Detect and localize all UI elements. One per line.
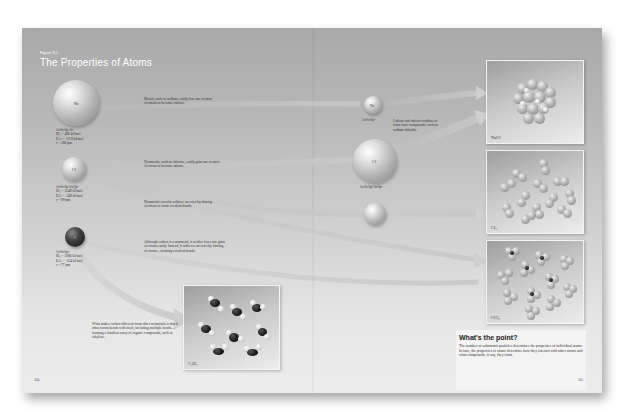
panel-c2h4: C₂H₄: [183, 285, 280, 370]
sodium-ion-config: 1s²2s²2p⁶: [362, 118, 375, 122]
panel-label-ccl4: CCl₄: [491, 315, 500, 320]
page-number-right: 105: [578, 378, 583, 382]
panel-label-nacl: NaCl: [491, 135, 501, 140]
panel-cl2: Cl₂: [486, 150, 584, 234]
figure-label: Figure 3.1: [40, 50, 58, 55]
chloride-ion-icon: Cl⁻: [353, 139, 397, 183]
chlorine-properties: 1s²2s²2p⁶3s²3p⁵ IE₁ = 1249 kJ/mol EA = −…: [56, 185, 83, 203]
sodium-ion-icon: Na⁺: [364, 96, 382, 114]
panel-ccl4: CCl₄: [486, 240, 584, 324]
caption-carbon: Although carbon is a nonmetal, it neithe…: [144, 240, 232, 253]
caption-nonmetals-share: Nonmetals can also achieve an octet by s…: [144, 200, 224, 209]
chloride-ion-config: 1s²2s²2p⁶3s²3p⁶: [360, 185, 383, 189]
sodium-symbol: Na: [53, 101, 99, 106]
sodium-atom-icon: Na: [53, 80, 99, 126]
carbon-atom-icon: C: [65, 227, 85, 247]
sodium-properties: 1s²2s²2p⁶3s¹ IE₁ = 496 kJ/mol EA = −52.9…: [56, 128, 83, 146]
carbon-symbol: C: [65, 235, 85, 240]
point-text: The number of subatomic particles determ…: [459, 344, 584, 358]
carbon-properties: 1s²2s²2p² IE₁ = 1086 kJ/mol EA = −154 kJ…: [56, 250, 83, 268]
whats-the-point-box: What's the point? The number of subatomi…: [456, 330, 586, 390]
chlorine-symbol: Cl: [62, 167, 86, 172]
chlorine-shared-atom-icon: [364, 203, 386, 225]
panel-nacl: NaCl: [486, 60, 584, 144]
caption-cations-anions: Cations and anions combine to form ionic…: [393, 119, 443, 132]
point-title: What's the point?: [459, 334, 517, 341]
chlorine-atom-icon: Cl: [62, 157, 86, 181]
panel-label-c2h4: C₂H₄: [188, 361, 197, 366]
figure-title: The Properties of Atoms: [40, 57, 152, 68]
panel-label-cl2: Cl₂: [491, 225, 497, 230]
page-number-left: 104: [34, 378, 39, 382]
caption-nonmetals-gain: Nonmetals, such as chlorine, easily gain…: [144, 160, 222, 169]
caption-metals: Metals, such as sodium, easily lose one …: [144, 97, 219, 106]
caption-carbon-different: What makes carbon different from other n…: [92, 322, 180, 340]
